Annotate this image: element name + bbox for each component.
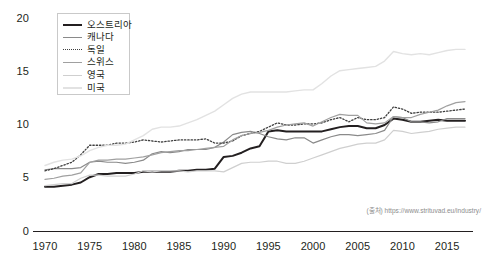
x-tick-label: 1995: [248, 240, 288, 252]
x-tick-label: 1975: [70, 240, 110, 252]
source-note: (출처) https://www.strituvad.eu/industry/: [335, 205, 481, 215]
legend-label: 영국: [87, 70, 105, 80]
legend-swatch-icon: [63, 32, 82, 41]
chart-legend[interactable]: 오스트리아캐나다독일스위스영국미국: [57, 13, 130, 95]
x-tick-label: 2010: [382, 240, 422, 252]
y-tick-label: 20: [3, 12, 29, 24]
series-line-2: [45, 107, 465, 171]
legend-item-4[interactable]: 영국: [63, 68, 125, 81]
series-line-4: [45, 127, 465, 186]
legend-item-1[interactable]: 캐나다: [63, 31, 125, 44]
x-tick-label: 2015: [427, 240, 467, 252]
legend-label: 독일: [87, 45, 105, 55]
x-tick-label: 2000: [293, 240, 333, 252]
x-tick-label: 1970: [25, 240, 65, 252]
y-tick-label: 5: [3, 171, 29, 183]
x-tick-label: 1985: [159, 240, 199, 252]
x-tick-label: 1980: [114, 240, 154, 252]
legend-label: 캐나다: [87, 32, 114, 42]
x-tick-label: 2005: [338, 240, 378, 252]
legend-item-3[interactable]: 스위스: [63, 56, 125, 69]
legend-label: 스위스: [87, 57, 114, 67]
legend-swatch-icon: [63, 20, 82, 29]
legend-swatch-icon: [63, 45, 82, 54]
y-tick-label: 10: [3, 118, 29, 130]
legend-label: 오스트리아: [87, 20, 132, 30]
legend-item-0[interactable]: 오스트리아: [63, 18, 125, 31]
legend-swatch-icon: [63, 70, 82, 79]
legend-swatch-icon: [63, 58, 82, 67]
y-tick-label: 0: [3, 225, 29, 237]
y-tick-label: 15: [3, 65, 29, 77]
series-line-3: [45, 102, 465, 180]
legend-label: 미국: [87, 83, 105, 93]
legend-swatch-icon: [63, 83, 82, 92]
x-tick-label: 1990: [204, 240, 244, 252]
legend-item-2[interactable]: 독일: [63, 43, 125, 56]
legend-item-5[interactable]: 미국: [63, 81, 125, 94]
line-chart: 05101520 1970197519801985199019952000200…: [0, 0, 483, 270]
